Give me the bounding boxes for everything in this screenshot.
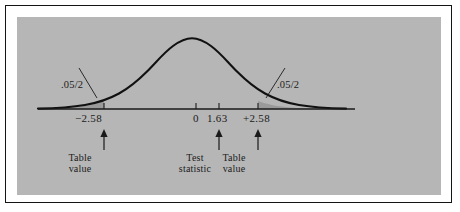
right-alpha-label: .05/2 (277, 79, 299, 90)
left-table-value-arrow (100, 129, 107, 150)
test-statistic-arrow (215, 129, 222, 150)
right-table-value-line2: value (210, 164, 258, 175)
left-alpha-label: .05/2 (61, 79, 83, 90)
tick-label-plus258: +2.58 (243, 113, 270, 125)
right-table-value-callout: Table value (210, 153, 258, 175)
normal-distribution-figure: .05/2 .05/2 −2.58 0 1.63 +2.58 Table val… (0, 0, 460, 212)
tick-label-163: 1.63 (207, 113, 227, 125)
tick-label-zero: 0 (193, 113, 199, 125)
right-table-value-arrow (254, 129, 261, 150)
tick-label-minus258: −2.58 (75, 113, 102, 125)
left-table-value-callout: Table value (56, 153, 104, 175)
normal-curve (38, 38, 346, 108)
left-table-value-line2: value (56, 164, 104, 175)
